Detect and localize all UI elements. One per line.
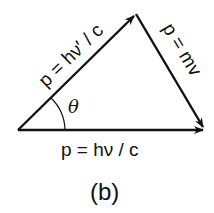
figure-caption: (b) — [90, 178, 119, 205]
vector-triangle-diagram: θ p = hν′ / c p = mv p = hν / c (b) — [0, 0, 214, 213]
scattered-photon-label: p = hν′ / c — [34, 19, 107, 91]
incident-photon-label: p = hν / c — [61, 139, 139, 160]
angle-label: θ — [68, 96, 79, 117]
angle-arc — [51, 98, 65, 130]
electron-momentum-label: p = mv — [159, 19, 207, 80]
